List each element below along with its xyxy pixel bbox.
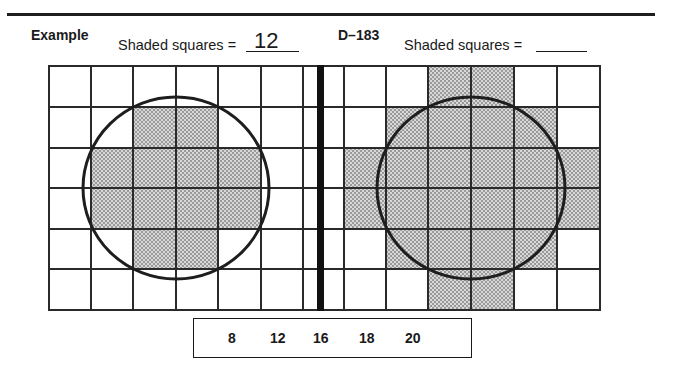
- grid-horizontal-line: [48, 187, 601, 189]
- example-shaded-cell: [91, 188, 133, 229]
- example-shaded-cell: [91, 148, 133, 188]
- choice-18[interactable]: 18: [359, 331, 375, 345]
- problem-shaded-cell: [428, 66, 471, 107]
- choice-12[interactable]: 12: [270, 331, 286, 345]
- problem-shaded-cell: [428, 188, 471, 229]
- problem-shaded-cell: [514, 188, 557, 229]
- problem-shaded-cell: [428, 269, 471, 310]
- example-shaded-cell: [133, 107, 176, 148]
- example-shaded-cell: [218, 148, 261, 188]
- problem-shaded-cell: [471, 188, 514, 229]
- example-shaded-cell: [133, 148, 176, 188]
- problem-shaded-cell: [386, 229, 428, 269]
- grid-horizontal-line: [48, 268, 601, 270]
- grid-horizontal-line: [48, 106, 601, 108]
- problem-shaded-cell: [471, 229, 514, 269]
- grid-horizontal-line: [48, 228, 601, 230]
- problem-shaded-cell: [428, 148, 471, 188]
- example-shaded-cell: [133, 229, 176, 269]
- example-shaded-cell: [133, 188, 176, 229]
- problem-shaded-cell: [557, 188, 600, 229]
- problem-shaded-cell: [471, 269, 514, 310]
- answer-choices-box: 8 12 16 18 20: [193, 318, 472, 358]
- grid-horizontal-line: [48, 65, 601, 67]
- problem-shaded-cell: [471, 66, 514, 107]
- problem-shaded-cell: [428, 107, 471, 148]
- problem-shaded-cell: [386, 107, 428, 148]
- example-shaded-cell: [176, 229, 218, 269]
- example-shaded-cell: [176, 148, 218, 188]
- problem-shaded-cell: [386, 188, 428, 229]
- problem-shaded-cell: [514, 148, 557, 188]
- example-shaded-cell: [176, 188, 218, 229]
- problem-shaded-cell: [386, 148, 428, 188]
- example-shaded-cell: [176, 107, 218, 148]
- problem-shaded-cell: [428, 229, 471, 269]
- choice-20[interactable]: 20: [405, 331, 421, 345]
- problem-shaded-cell: [471, 107, 514, 148]
- problem-shaded-cell: [471, 148, 514, 188]
- example-shaded-cell: [218, 188, 261, 229]
- grid-divider: [317, 65, 324, 311]
- choice-16[interactable]: 16: [313, 331, 329, 345]
- problem-shaded-cell: [557, 148, 600, 188]
- grid-horizontal-line: [48, 147, 601, 149]
- problem-shaded-cell: [514, 107, 557, 148]
- problem-shaded-cell: [344, 148, 386, 188]
- problem-shaded-cell: [344, 188, 386, 229]
- grid-horizontal-line: [48, 309, 601, 311]
- problem-shaded-cell: [514, 229, 557, 269]
- choice-8[interactable]: 8: [228, 331, 236, 345]
